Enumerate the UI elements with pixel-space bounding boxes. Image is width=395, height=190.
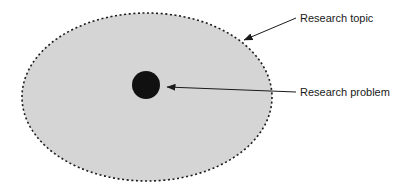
research-topic-label: Research topic bbox=[300, 12, 374, 24]
diagram-canvas: Research topic Research problem bbox=[0, 0, 395, 190]
diagram-svg: Research topic Research problem bbox=[0, 0, 395, 190]
research-problem-circle bbox=[132, 71, 160, 99]
research-problem-label: Research problem bbox=[300, 86, 390, 98]
